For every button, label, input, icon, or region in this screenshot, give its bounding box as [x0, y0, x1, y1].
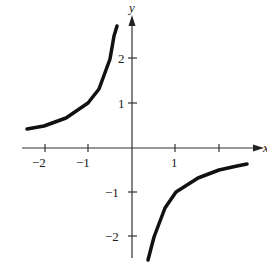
- right-branch-curve: [148, 164, 247, 260]
- x-axis-label: x: [262, 140, 267, 155]
- y-axis-arrow-icon: [129, 15, 136, 26]
- chart-svg: −2 −1 1 2 1 −1 −2 y x: [0, 0, 267, 272]
- x-tick-label: −2: [32, 155, 46, 170]
- chart: −2 −1 1 2 1 −1 −2 y x: [0, 0, 267, 272]
- y-tick-label: 1: [118, 96, 125, 111]
- y-axis-label: y: [127, 0, 135, 15]
- x-tick-label: 1: [171, 155, 178, 170]
- left-branch-curve: [27, 26, 117, 129]
- y-tick-label: −2: [105, 229, 119, 244]
- y-tick-label: −1: [105, 185, 119, 200]
- y-tick-label: 2: [118, 51, 125, 66]
- x-tick-label: −1: [76, 155, 90, 170]
